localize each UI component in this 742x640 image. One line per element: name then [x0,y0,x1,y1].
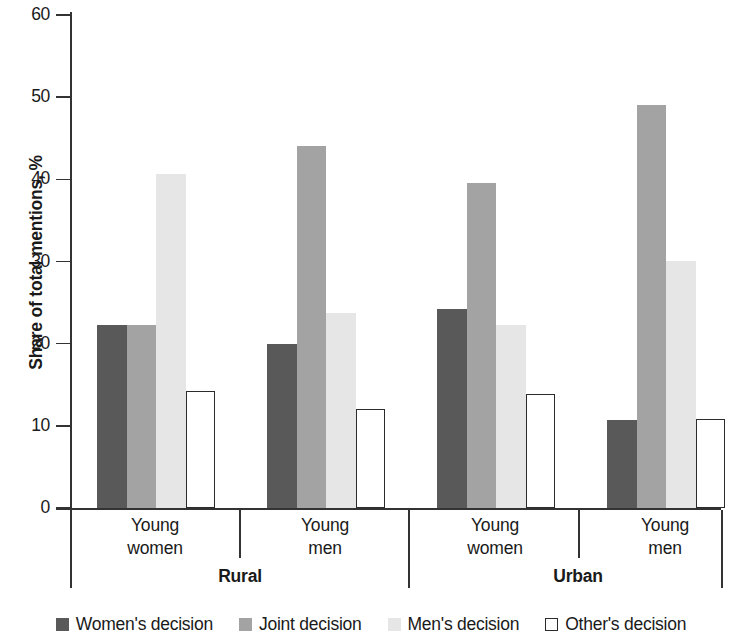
x-axis-subgroup-label-line1: Young [415,514,575,537]
bar [437,309,467,508]
x-axis-subgroup-label: Youngwomen [415,514,575,560]
x-axis-subgroup-label-line2: men [585,537,742,560]
legend-item: Men's decision [388,614,520,635]
bar [267,344,297,508]
x-axis-group-separator [70,510,72,588]
bar [297,146,327,508]
bar [637,105,667,508]
bar [326,313,356,508]
bars-layer [0,15,742,508]
x-axis-subgroup-label-line1: Young [245,514,405,537]
x-axis-subgroup-label: Youngwomen [75,514,235,560]
chart-legend: Women's decisionJoint decisionMen's deci… [0,608,742,640]
bar [526,394,556,508]
legend-swatch-icon [239,618,252,631]
x-axis-subgroup-separator [578,510,580,558]
x-axis-group-label: Rural [90,566,390,587]
x-axis-subgroup-label-line1: Young [585,514,742,537]
legend-item: Other's decision [545,614,686,635]
x-axis-group-label: Urban [428,566,728,587]
legend-swatch-icon [56,618,69,631]
x-axis-subgroup-label-line2: women [75,537,235,560]
legend-label: Men's decision [408,614,520,635]
legend-label: Other's decision [565,614,686,635]
legend-label: Joint decision [259,614,362,635]
bar [607,420,637,508]
legend-item: Women's decision [56,614,213,635]
x-axis-subgroup-label-line2: women [415,537,575,560]
x-axis-subgroup-separator [239,510,241,558]
x-axis-subgroup-label-line1: Young [75,514,235,537]
bar [356,409,386,508]
x-axis-subgroup-label: Youngmen [245,514,405,560]
bar [186,391,216,508]
x-axis-subgroup-label: Youngmen [585,514,742,560]
bar [666,261,696,508]
legend-label: Women's decision [76,614,213,635]
legend-item: Joint decision [239,614,362,635]
legend-swatch-icon [545,618,558,631]
x-axis-line [56,508,721,510]
legend-swatch-icon [388,618,401,631]
bar [156,174,186,508]
x-axis-subgroup-label-line2: men [245,537,405,560]
bar [496,325,526,508]
bar [467,183,497,508]
bar [696,419,726,508]
bar [127,325,157,508]
bar-chart-figure: Share of total mentions, % 0102030405060… [0,0,742,640]
bar [97,325,127,508]
x-axis-group-separator [408,510,410,588]
